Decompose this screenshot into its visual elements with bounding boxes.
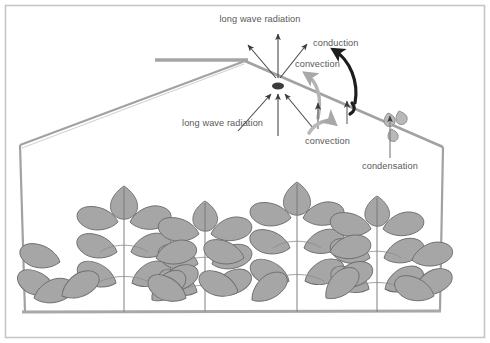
radiation-node: [272, 83, 284, 90]
crop-row: [13, 182, 456, 312]
greenhouse-glazing-left: [22, 64, 244, 148]
label-convection-lower: convection: [305, 136, 350, 147]
lwr-in-ray-right: [285, 94, 313, 128]
label-long-wave-radiation-inside: long wave radiation: [182, 118, 263, 129]
long-wave-radiation-outside-arrows: [248, 34, 307, 78]
greenhouse-floor: [22, 311, 441, 312]
condensation-droplets: [384, 111, 407, 158]
convection-lower-arrow: [309, 121, 334, 133]
conduction-arrow: [334, 50, 356, 103]
long-wave-radiation-inside-arrows: [238, 94, 313, 136]
label-condensation: condensation: [362, 161, 418, 172]
greenhouse-diagram: long wave radiation conduction convectio…: [0, 0, 490, 343]
label-conduction: conduction: [313, 38, 358, 49]
greenhouse-right-roof: [245, 61, 443, 147]
condensation-droplet-right: [396, 111, 407, 125]
label-long-wave-radiation-top: long wave radiation: [219, 14, 300, 25]
greenhouse-left-roof: [20, 61, 245, 145]
lwr-out-ray-left: [248, 45, 276, 78]
label-convection-upper: convection: [295, 59, 340, 70]
